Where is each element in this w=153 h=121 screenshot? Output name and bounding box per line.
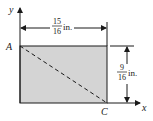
y-axis-label: y	[8, 4, 14, 15]
point-a-label: A	[5, 41, 13, 52]
x-axis-label: x	[141, 102, 147, 113]
width-unit: in.	[63, 22, 72, 32]
width-dimension-label: 15 16 in.	[52, 17, 72, 36]
height-denominator: 16	[118, 73, 126, 82]
point-c-label: C	[101, 106, 108, 117]
height-unit: in.	[128, 68, 137, 78]
height-numerator: 9	[120, 63, 124, 72]
width-denominator: 16	[53, 27, 61, 36]
diagram-canvas: 15 16 in. 9 16 in. A C y x	[0, 0, 153, 121]
height-dimension-label: 9 16 in.	[117, 63, 137, 82]
width-numerator: 15	[53, 17, 61, 26]
